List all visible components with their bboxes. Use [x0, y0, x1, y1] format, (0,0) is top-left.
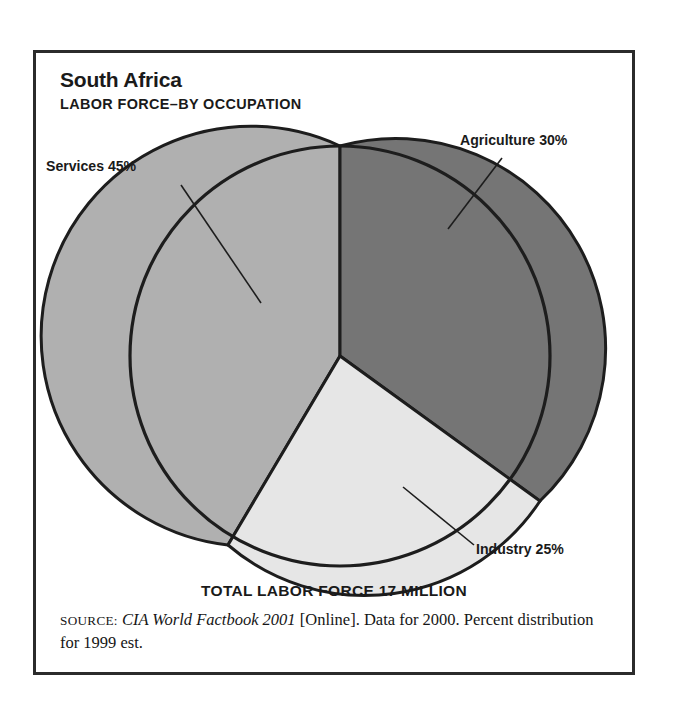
figure-frame: South Africa LABOR FORCE–BY OCCUPATION A… — [33, 50, 635, 675]
source-note: SOURCE: CIA World Factbook 2001 [Online]… — [60, 609, 614, 655]
source-publication: CIA World Factbook 2001 — [122, 610, 296, 629]
total-labor-force-caption: TOTAL LABOR FORCE 17 MILLION — [36, 582, 632, 600]
pie-label-services: Services 45% — [46, 157, 136, 174]
pie-label-industry: Industry 25% — [476, 540, 564, 557]
source-prefix: SOURCE: — [60, 613, 118, 628]
pie-label-agriculture: Agriculture 30% — [460, 131, 567, 148]
